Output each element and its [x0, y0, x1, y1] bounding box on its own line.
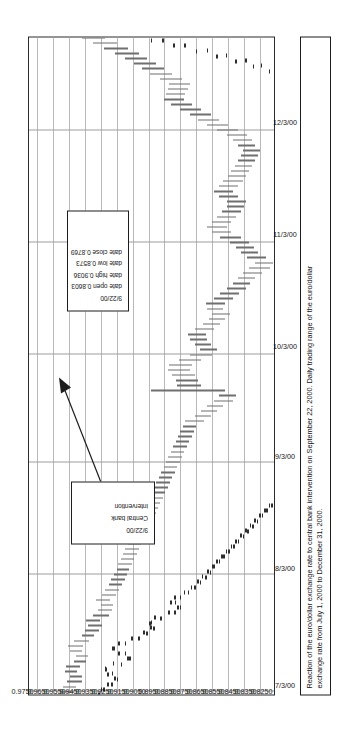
gridline-price	[164, 37, 165, 694]
gridline-price	[196, 37, 197, 694]
ohlc-bar	[180, 108, 201, 110]
ohlc-bar	[156, 481, 170, 483]
ohlc-close-tick	[184, 590, 186, 594]
ohlc-bar	[67, 680, 81, 682]
gridline-date	[29, 573, 274, 574]
gridline-price	[149, 37, 150, 694]
ohlc-open-tick	[252, 524, 254, 528]
ohlc-close-tick	[259, 513, 261, 517]
ohlc-bar	[212, 231, 231, 233]
ohlc-bar	[214, 190, 233, 192]
ohlc-close-tick	[250, 523, 252, 527]
ohlc-bar	[104, 47, 128, 49]
ohlc-bar	[70, 675, 83, 677]
x-axis-tick: 7/3/00	[279, 684, 288, 704]
ohlc-open-tick	[112, 646, 114, 650]
ohlc-open-tick	[194, 585, 196, 589]
ohlc-close-tick	[174, 595, 176, 599]
ohlc-bar	[214, 400, 233, 402]
gridline-price	[260, 37, 261, 694]
ohlc-bar	[134, 62, 156, 64]
ohlc-bar	[255, 262, 273, 264]
ohlc-open-tick	[196, 49, 198, 53]
gridline-price	[69, 37, 70, 694]
ohlc-open-tick	[205, 575, 207, 579]
ohlc-open-tick	[170, 600, 172, 604]
ohlc-close-tick	[125, 651, 127, 655]
x-axis-tick-label: 7/3/00	[275, 680, 295, 689]
ohlc-bar	[200, 348, 218, 350]
ohlc-close-tick	[127, 656, 129, 660]
figure-root: 9/22/00date open 0.8603date high 0.9036d…	[0, 0, 338, 731]
y-axis-tick: 0.8750	[190, 697, 200, 731]
ohlc-bar	[241, 154, 259, 156]
y-axis-tick: 0.9650	[47, 697, 57, 731]
ohlc-bar	[190, 338, 208, 340]
ohlc-close-tick	[118, 641, 120, 645]
ohlc-bar	[209, 318, 225, 320]
intervention-callout-line: intervention	[115, 502, 149, 509]
intervention-callout: 9/22/00Central bankintervention	[71, 481, 155, 544]
ohlc-bar	[231, 170, 249, 172]
ohlc-bar	[207, 226, 226, 228]
ohlc-bar	[207, 124, 228, 126]
ohlc-close-tick	[226, 53, 228, 57]
ohlc-open-tick	[129, 656, 131, 660]
ohlc-bar	[214, 297, 233, 299]
ohlc-callout-line: date low 0.8573	[76, 260, 122, 267]
ohlc-close-tick	[221, 554, 223, 558]
ohlc-bar	[249, 267, 270, 269]
ohlc-open-tick	[151, 38, 153, 42]
ohlc-open-tick	[238, 539, 240, 543]
ohlc-bar	[154, 486, 168, 488]
ohlc-bar	[114, 573, 127, 575]
ohlc-callout-line: date open 0.8603	[71, 283, 122, 290]
ohlc-open-tick	[247, 529, 249, 533]
ohlc-open-tick	[266, 508, 268, 512]
ohlc-callout-line: date high 0.9036	[74, 271, 122, 278]
y-axis-tick: 0.9450	[79, 697, 89, 731]
ohlc-bar	[168, 456, 182, 458]
ohlc-bar	[176, 379, 198, 381]
ohlc-bar	[82, 635, 95, 637]
ohlc-value-callout: 9/22/00date open 0.8603date high 0.9036d…	[67, 210, 129, 311]
ohlc-bar	[76, 655, 88, 657]
ohlc-bar	[85, 629, 99, 631]
ohlc-bar	[222, 211, 241, 213]
ohlc-bar	[206, 302, 225, 304]
ohlc-open-tick	[219, 559, 221, 563]
y-axis-tick: 0.8850	[174, 697, 184, 731]
ohlc-bar	[169, 83, 190, 85]
ohlc-bar	[235, 165, 253, 167]
ohlc-open-tick	[121, 662, 123, 666]
ohlc-open-tick	[223, 554, 225, 558]
x-axis-tick: 11/3/00	[279, 231, 288, 254]
ohlc-bar	[238, 144, 256, 146]
ohlc-bar	[238, 159, 256, 161]
ohlc-bar	[65, 670, 77, 672]
ohlc-bar	[115, 52, 139, 54]
ohlc-bar	[169, 364, 191, 366]
ohlc-bar	[219, 185, 238, 187]
ohlc-bar	[233, 139, 252, 141]
ohlc-bar	[168, 369, 190, 371]
ohlc-bar	[151, 389, 225, 391]
ohlc-close-tick	[113, 661, 115, 665]
ohlc-bar	[178, 435, 192, 437]
ohlc-bar	[247, 256, 266, 258]
ohlc-close-tick	[107, 682, 109, 686]
ohlc-bar	[117, 568, 130, 570]
ohlc-close-tick	[143, 631, 145, 635]
y-axis-tick: 0.9350	[95, 697, 105, 731]
ohlc-close-tick	[231, 544, 233, 548]
ohlc-bar	[179, 359, 201, 361]
caption-line-1: Reaction of the euro/dollar exchange rat…	[305, 43, 315, 688]
ohlc-close-tick	[168, 610, 170, 614]
ohlc-bar	[207, 405, 223, 407]
gridline-price	[117, 37, 118, 694]
ohlc-close-tick	[191, 585, 193, 589]
ohlc-open-tick	[262, 513, 264, 517]
ohlc-bar	[195, 328, 214, 330]
ohlc-close-tick	[240, 533, 242, 537]
ohlc-close-tick	[261, 63, 263, 67]
